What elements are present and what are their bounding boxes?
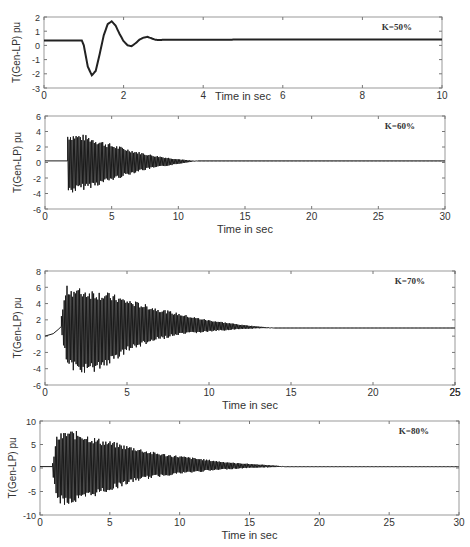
y-tick-label: -2 [32, 69, 40, 79]
y-tick-label: 6 [36, 112, 41, 122]
x-axis-label: Time in sec [217, 223, 273, 235]
subplot-2: 051015202530-6-4-20246Time in secT(Gen-L… [12, 112, 451, 236]
y-tick-label: 0 [35, 41, 40, 51]
y-tick-label: 4 [36, 299, 41, 309]
x-tick-label: 0 [42, 387, 48, 398]
k-annotation: K=50% [382, 22, 412, 32]
x-tick-label: 25 [384, 517, 396, 528]
x-tick-label: 15 [244, 517, 256, 528]
x-tick-label: 5 [107, 517, 113, 528]
y-tick-label: 8 [36, 267, 41, 277]
x-tick-label: 10 [203, 387, 215, 398]
x-tick-label: 0 [41, 90, 47, 101]
figure-canvas: 0246810-3-2-1012Time in secT(Gen-LP) puK… [0, 0, 470, 547]
x-tick-label: 30 [439, 211, 451, 222]
x-axis-label: Time in sec [215, 90, 271, 102]
y-tick-label: 2 [36, 143, 41, 153]
x-tick-label: 4 [200, 90, 206, 101]
x-tick-label: 30 [453, 517, 465, 528]
y-tick-label: -2 [33, 348, 41, 358]
x-tick-label: 0 [37, 517, 43, 528]
y-tick-label: -4 [33, 364, 41, 374]
y-tick-label: -1 [32, 55, 40, 65]
subplot-1: 0246810-3-2-1012Time in secT(Gen-LP) puK… [11, 13, 448, 103]
subplot-3: 051015202525-6-4-202468Time in secT(Gen-… [12, 267, 461, 412]
x-axis-label: Time in sec [222, 529, 278, 541]
x-tick-label: 25 [373, 211, 385, 222]
y-tick-label: 5 [31, 440, 36, 450]
y-tick-label: 10 [26, 417, 36, 427]
x-tick-label: 20 [306, 211, 318, 222]
k-annotation: K=80% [399, 426, 429, 436]
y-tick-label: 0 [36, 332, 41, 342]
y-tick-label: -2 [33, 174, 41, 184]
y-tick-label: -6 [33, 205, 41, 215]
y-tick-label: 4 [36, 127, 41, 137]
x-tick-label: 10 [173, 211, 185, 222]
y-tick-label: 2 [36, 315, 41, 325]
y-axis-label: T(Gen-LP) pu [12, 132, 23, 193]
x-tick-label: 15 [285, 387, 297, 398]
y-tick-label: 6 [36, 283, 41, 293]
y-tick-label: -3 [32, 84, 40, 94]
y-tick-label: -10 [23, 511, 36, 521]
x-tick-label: 0 [42, 211, 48, 222]
subplot-4: 051015202530-10-50510Time in secT(Gen-LP… [7, 417, 465, 542]
x-tick-label: 20 [367, 387, 379, 398]
k-annotation: K=60% [385, 121, 415, 131]
y-axis-label: T(Gen-LP) pu [12, 297, 23, 358]
y-tick-label: -5 [28, 487, 36, 497]
y-tick-label: 0 [31, 464, 36, 474]
y-axis-label: T(Gen-LP) pu [11, 22, 22, 83]
x-tick-label: 5 [109, 211, 115, 222]
x-tick-label: 5 [124, 387, 130, 398]
y-tick-label: 1 [35, 27, 40, 37]
y-tick-label: 0 [36, 158, 41, 168]
k-annotation: K=70% [395, 276, 425, 286]
y-tick-label: -4 [33, 189, 41, 199]
x-tick-label: 25 [449, 387, 461, 398]
x-tick-label: 10 [174, 517, 186, 528]
x-tick-label: 20 [314, 517, 326, 528]
figure: 0246810-3-2-1012Time in secT(Gen-LP) puK… [0, 0, 470, 547]
x-tick-label: 10 [436, 90, 448, 101]
x-tick-label: 15 [239, 211, 251, 222]
x-axis-label: Time in sec [222, 399, 278, 411]
x-tick-label: 6 [280, 90, 286, 101]
y-axis-label: T(Gen-LP) pu [7, 437, 18, 498]
x-tick-label: 2 [121, 90, 127, 101]
y-tick-label: 2 [35, 13, 40, 23]
y-tick-label: -6 [33, 381, 41, 391]
x-tick-label: 8 [360, 90, 366, 101]
